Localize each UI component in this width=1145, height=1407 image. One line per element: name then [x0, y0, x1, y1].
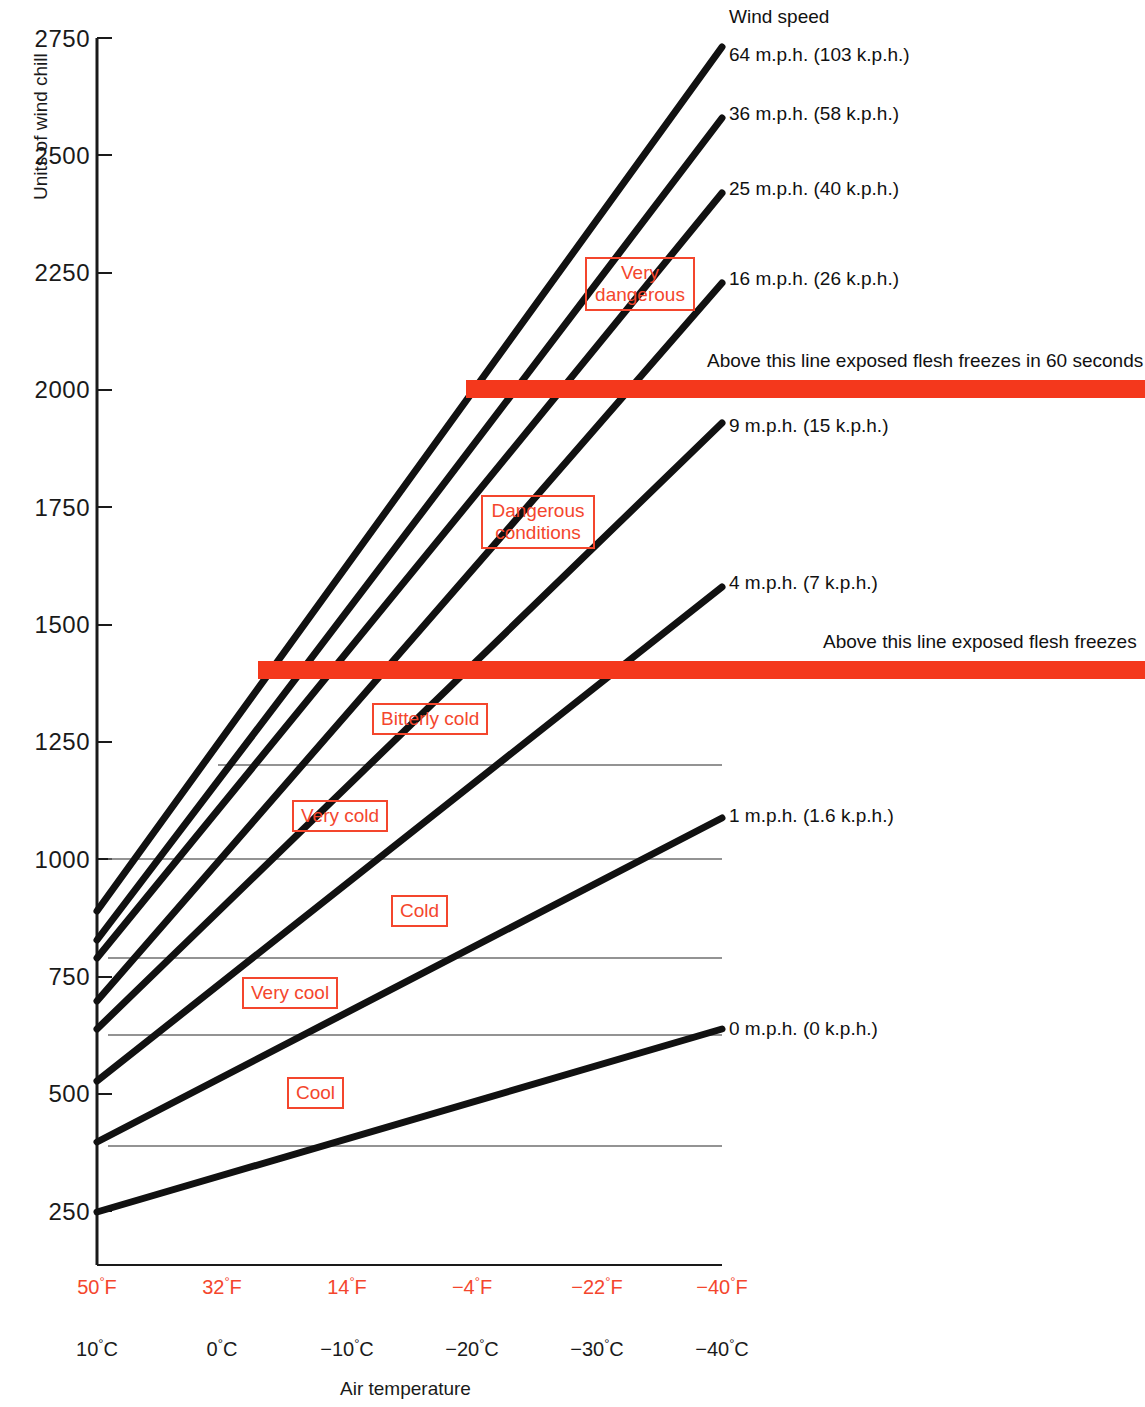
zone-label-very-dangerous-line2: dangerous: [594, 284, 686, 306]
line-36mph: [97, 118, 722, 940]
x-tick-c-0: 0°C: [172, 1336, 272, 1361]
threshold-note-freeze: Above this line exposed flesh freezes: [823, 631, 1137, 653]
wind-chill-chart: Units of wind chill 2750 2500 2250 2000 …: [0, 0, 1145, 1407]
zone-label-cool: Cool: [287, 1077, 344, 1109]
legend-item-25mph[interactable]: 25 m.p.h. (40 k.p.h.): [729, 178, 899, 200]
x-tick-c-minus30: −30°C: [547, 1336, 647, 1361]
zone-label-bitterly-cold: Bitterly cold: [372, 703, 488, 735]
zone-label-very-dangerous-line1: Very: [594, 262, 686, 284]
axis-lines: [97, 38, 722, 1265]
x-tick-f-minus40: −40°F: [672, 1274, 772, 1299]
zone-label-dangerous-conditions: Dangerous conditions: [481, 495, 595, 549]
threshold-note-60-seconds: Above this line exposed flesh freezes in…: [707, 350, 1143, 372]
x-tick-c-minus40: −40°C: [672, 1336, 772, 1361]
legend-title: Wind speed: [729, 6, 829, 28]
x-tick-f-50: 50°F: [47, 1274, 147, 1299]
threshold-band-1400: [258, 661, 1145, 679]
legend-item-1mph[interactable]: 1 m.p.h. (1.6 k.p.h.): [729, 805, 894, 827]
zone-label-very-dangerous: Very dangerous: [585, 257, 695, 311]
legend-item-4mph[interactable]: 4 m.p.h. (7 k.p.h.): [729, 572, 878, 594]
zone-label-dangerous-line1: Dangerous: [490, 500, 586, 522]
x-tick-c-minus20: −20°C: [422, 1336, 522, 1361]
legend-item-9mph[interactable]: 9 m.p.h. (15 k.p.h.): [729, 415, 888, 437]
x-tick-f-32: 32°F: [172, 1274, 272, 1299]
line-0mph: [97, 1029, 722, 1212]
x-tick-f-minus4: −4°F: [422, 1274, 522, 1299]
zone-label-cold: Cold: [391, 895, 448, 927]
x-tick-c-minus10: −10°C: [297, 1336, 397, 1361]
zone-label-dangerous-line2: conditions: [490, 522, 586, 544]
line-1mph: [97, 818, 722, 1142]
x-axis-title: Air temperature: [340, 1378, 471, 1400]
x-tick-c-10: 10°C: [47, 1336, 147, 1361]
wind-speed-lines: [97, 47, 722, 1212]
legend-item-0mph[interactable]: 0 m.p.h. (0 k.p.h.): [729, 1018, 878, 1040]
legend-item-16mph[interactable]: 16 m.p.h. (26 k.p.h.): [729, 268, 899, 290]
zone-label-very-cool: Very cool: [242, 977, 338, 1009]
line-64mph: [97, 47, 722, 911]
x-tick-f-minus22: −22°F: [547, 1274, 647, 1299]
legend-item-36mph[interactable]: 36 m.p.h. (58 k.p.h.): [729, 103, 899, 125]
zone-label-very-cold: Very cold: [292, 800, 388, 832]
x-tick-f-14: 14°F: [297, 1274, 397, 1299]
threshold-band-2000: [466, 380, 1145, 398]
legend-item-64mph[interactable]: 64 m.p.h. (103 k.p.h.): [729, 44, 910, 66]
